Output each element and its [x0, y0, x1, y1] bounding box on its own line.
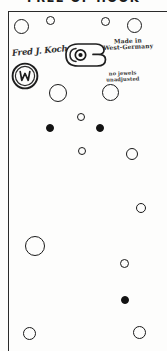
- hole-bot-1: [23, 327, 36, 340]
- hole-low-1: [25, 236, 45, 256]
- scanned-page: FREE OF HOOK Fred J. Koch Made in West-G…: [0, 0, 167, 351]
- hole-mid-3: [77, 113, 85, 121]
- hole-top-2: [46, 16, 55, 25]
- hole-top-4: [127, 18, 142, 33]
- made-in-annotation: Made in West-Germany: [103, 37, 154, 52]
- hole-dot-3: [121, 296, 129, 304]
- hole-right-2: [136, 203, 146, 213]
- hole-mid-2: [102, 84, 119, 101]
- hole-dot-2: [96, 124, 104, 132]
- hole-dot-1: [46, 124, 54, 132]
- frame-top-rule: [8, 11, 167, 12]
- hole-right-1: [126, 148, 138, 160]
- hole-top-1: [14, 19, 29, 34]
- hole-low-2: [120, 259, 129, 268]
- hole-bot-2: [133, 326, 146, 339]
- frame-left-rule: [8, 11, 9, 351]
- hole-top-3: [101, 17, 110, 26]
- jewels-line-2: unadjusted: [106, 76, 140, 83]
- clamp-bracket: [64, 41, 108, 73]
- hole-mid-4: [78, 147, 86, 155]
- hole-mid-1: [49, 84, 67, 102]
- page-title-band: FREE OF HOOK: [0, 0, 167, 10]
- maker-seal: [11, 62, 39, 94]
- page-title: FREE OF HOOK: [27, 0, 140, 5]
- jewels-annotation: no jewels unadjusted: [106, 70, 140, 82]
